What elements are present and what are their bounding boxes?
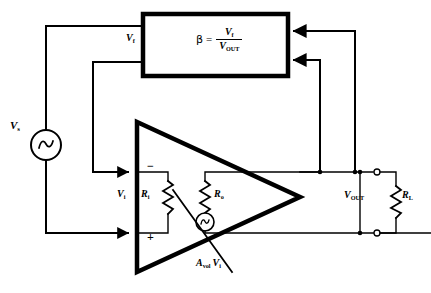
junction-dot-output-lower: [318, 170, 323, 175]
wire-source-to-noninverting: [46, 160, 128, 233]
wire-output-to-feedback-upper: [294, 31, 355, 172]
beta-symbol: β: [196, 33, 203, 46]
junction-dot-vout-bottom: [358, 231, 363, 236]
feedback-voltage-label: Vf: [126, 33, 135, 43]
output-voltage-label: VOUT: [344, 190, 364, 200]
output-terminal-top: [374, 169, 380, 175]
load-resistor-RL: [391, 186, 401, 218]
load-resistance-label: RL: [402, 190, 413, 200]
equals-sign: =: [206, 33, 212, 45]
circuit-diagram-figure: Vs Vf β = Vf VOUT − + Vi Ri Ro Avol Vi V…: [0, 0, 431, 293]
input-resistance-label: Ri: [141, 189, 149, 199]
junction-dot-output-upper: [353, 170, 358, 175]
output-terminal-bottom: [374, 230, 380, 236]
wire-terminal-top-to-load: [380, 172, 396, 186]
inverting-input-sign: −: [147, 160, 154, 172]
input-voltage-label: Vi: [117, 189, 125, 199]
beta-fraction: Vf VOUT: [216, 27, 242, 51]
source-voltage-label: Vs: [10, 120, 20, 131]
beta-formula: β = Vf VOUT: [196, 27, 242, 51]
wire-terminal-bottom-to-load: [380, 218, 396, 233]
beta-numerator: Vf: [222, 27, 237, 39]
wire-internal-output-bottom: [205, 231, 431, 233]
dependent-source-label: Avol Vi: [196, 258, 221, 268]
junction-dot-vout-top: [358, 170, 363, 175]
noninverting-input-sign: +: [147, 231, 154, 243]
wire-output-to-feedback-lower: [294, 60, 320, 172]
output-resistance-label: Ro: [214, 189, 224, 199]
beta-denominator: VOUT: [216, 39, 242, 52]
